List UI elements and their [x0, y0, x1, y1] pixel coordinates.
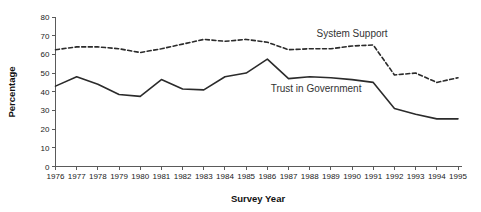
- x-tick-label: 1989: [322, 172, 340, 181]
- y-tick-label: 50: [41, 69, 50, 78]
- chart-series-group: [56, 39, 459, 118]
- x-tick-label: 1984: [216, 172, 234, 181]
- chart-axes: [56, 17, 463, 167]
- x-tick-label: 1980: [131, 172, 149, 181]
- x-tick-label: 1978: [89, 172, 107, 181]
- x-tick-label: 1993: [407, 172, 425, 181]
- y-axis-title: Percentage: [6, 66, 17, 117]
- x-tick-label: 1981: [153, 172, 171, 181]
- y-tick-label: 0: [45, 163, 50, 172]
- y-axis-tick-labels: 01020304050607080: [41, 13, 50, 172]
- y-tick-label: 40: [41, 88, 50, 97]
- x-tick-label: 1983: [195, 172, 213, 181]
- y-tick-label: 10: [41, 144, 50, 153]
- y-tick-label: 30: [41, 106, 50, 115]
- chart-canvas: 01020304050607080 1976197719781979198019…: [0, 0, 481, 212]
- x-axis-title: Survey Year: [231, 193, 286, 204]
- x-tick-label: 1991: [364, 172, 382, 181]
- series-line-trust-in-government: [56, 59, 459, 119]
- x-tick-label: 1986: [258, 172, 276, 181]
- series-line-system-support: [56, 39, 459, 82]
- x-tick-label: 1994: [428, 172, 446, 181]
- y-axis-ticks: [52, 17, 56, 167]
- x-tick-label: 1976: [47, 172, 65, 181]
- x-axis-ticks: [56, 167, 459, 171]
- y-tick-label: 20: [41, 125, 50, 134]
- x-tick-label: 1985: [237, 172, 255, 181]
- x-tick-label: 1995: [449, 172, 467, 181]
- series-annotation-system-support: System Support: [317, 28, 388, 39]
- y-tick-label: 70: [41, 32, 50, 41]
- x-tick-label: 1979: [110, 172, 128, 181]
- y-tick-label: 60: [41, 50, 50, 59]
- x-tick-label: 1987: [280, 172, 298, 181]
- x-tick-label: 1982: [174, 172, 192, 181]
- y-tick-label: 80: [41, 13, 50, 22]
- x-tick-label: 1977: [68, 172, 86, 181]
- x-tick-label: 1990: [343, 172, 361, 181]
- line-chart-figure: 01020304050607080 1976197719781979198019…: [0, 0, 481, 212]
- x-tick-label: 1992: [386, 172, 404, 181]
- series-annotation-trust-in-government: Trust in Government: [271, 83, 362, 94]
- x-axis-tick-labels: 1976197719781979198019811982198319841985…: [47, 172, 468, 181]
- x-tick-label: 1988: [301, 172, 319, 181]
- chart-annotations: System SupportTrust in Government: [271, 28, 388, 94]
